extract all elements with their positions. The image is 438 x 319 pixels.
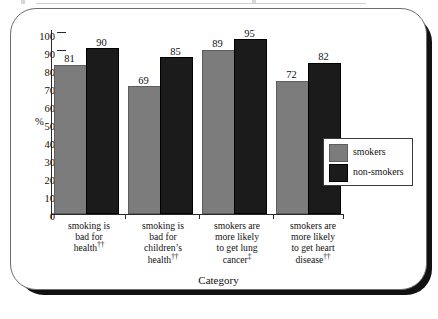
bar-non-smokers-2 — [160, 57, 193, 214]
category-label-1: smoking is bad for health†† — [51, 220, 127, 254]
bar-smokers-3 — [202, 50, 235, 214]
category-2-footnote-marker: †† — [171, 252, 178, 260]
category-2-line-1: smoking is — [125, 220, 201, 231]
category-4-line-3: to get heart — [273, 242, 353, 253]
category-2-line-3: children’s — [125, 242, 201, 253]
plot-area: 81 90 69 85 89 95 72 82 — [52, 32, 344, 214]
value-label-non-smokers-1: 90 — [86, 38, 117, 49]
category-1-line-1: smoking is — [51, 220, 127, 231]
category-4-line-4: disease†† — [273, 254, 353, 265]
bar-smokers-4 — [276, 81, 309, 214]
category-3-line-2: more likely — [199, 231, 275, 242]
bar-smokers-2 — [128, 86, 161, 214]
category-label-2: smoking is bad for children’s health†† — [125, 220, 201, 265]
category-4-line-2: more likely — [273, 231, 353, 242]
category-4-line-1: smokers are — [273, 220, 353, 231]
value-label-smokers-4: 72 — [276, 70, 307, 81]
chart-legend: smokers non-smokers — [323, 138, 413, 186]
x-tick-mark-2 — [199, 214, 200, 219]
value-label-non-smokers-3: 95 — [234, 29, 265, 40]
bar-non-smokers-1 — [86, 48, 119, 214]
legend-label-non-smokers: non-smokers — [353, 166, 404, 177]
value-label-smokers-2: 69 — [128, 76, 159, 87]
category-4-line-4-text: disease — [296, 254, 324, 265]
legend-swatch-non-smokers-icon — [329, 164, 348, 182]
category-label-4: smokers are more likely to get heart dis… — [273, 220, 353, 265]
value-label-smokers-1: 81 — [54, 54, 85, 65]
x-tick-mark-3 — [273, 214, 274, 219]
cropped-glyph-artifact-left — [21, 0, 25, 4]
value-label-smokers-3: 89 — [202, 39, 233, 50]
x-axis-line — [51, 214, 344, 215]
cropped-line-artifact — [36, 3, 366, 4]
category-3-line-3: to get lung — [199, 242, 275, 253]
category-1-footnote-marker: †† — [97, 241, 104, 249]
value-label-non-smokers-2: 85 — [160, 47, 191, 58]
category-1-line-3-text: health — [74, 242, 97, 253]
legend-label-smokers: smokers — [353, 146, 386, 157]
category-3-line-4: cancer‡ — [199, 254, 275, 265]
category-label-3: smokers are more likely to get lung canc… — [199, 220, 275, 265]
x-tick-mark-1 — [125, 214, 126, 219]
category-2-line-4: health†† — [125, 254, 201, 265]
category-1-line-2: bad for — [51, 231, 127, 242]
x-tick-mark-4 — [343, 214, 344, 219]
legend-swatch-smokers-icon — [329, 144, 348, 162]
x-tick-mark-0 — [51, 214, 52, 219]
cropped-glyph-artifact-right — [252, 0, 256, 3]
bar-smokers-1 — [54, 65, 87, 214]
category-2-line-4-text: health — [148, 254, 171, 265]
category-3-line-4-text: cancer — [223, 254, 248, 265]
bar-non-smokers-3 — [234, 39, 267, 214]
category-3-line-1: smokers are — [199, 220, 275, 231]
x-axis-title: Category — [11, 274, 426, 286]
category-3-footnote-marker: ‡ — [248, 252, 252, 260]
category-4-footnote-marker: †† — [323, 252, 330, 260]
category-2-line-2: bad for — [125, 231, 201, 242]
y-axis-label: % — [35, 117, 44, 128]
value-label-non-smokers-4: 82 — [308, 52, 339, 63]
chart-frame: 100 90 80 70 60 50 % 40 30 — [10, 8, 427, 290]
category-1-line-3: health†† — [51, 242, 127, 253]
chart-screenshot: 100 90 80 70 60 50 % 40 30 — [0, 0, 438, 319]
